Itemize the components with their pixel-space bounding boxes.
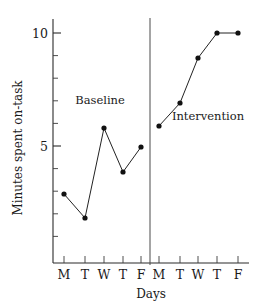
- y-axis-title: Minutes spent on-task: [11, 80, 25, 216]
- data-point-intervention-0: [156, 123, 161, 128]
- x-tick-label-0: M: [58, 267, 71, 282]
- annotation-intervention: Intervention: [172, 109, 245, 123]
- data-point-baseline-0: [61, 191, 66, 196]
- x-tick-label-6: T: [176, 267, 185, 282]
- x-tick-label-7: W: [192, 267, 205, 282]
- data-point-intervention-4: [235, 30, 240, 35]
- x-tick-label-2: W: [98, 267, 111, 282]
- x-axis-title: Days: [136, 287, 166, 301]
- data-point-baseline-1: [82, 215, 87, 220]
- series-line-baseline: [64, 128, 141, 218]
- x-tick-label-4: F: [137, 267, 146, 282]
- data-point-intervention-2: [195, 55, 200, 60]
- x-tick-label-8: T: [213, 267, 222, 282]
- y-tick-label-5: 5: [40, 139, 48, 154]
- annotation-baseline: Baseline: [75, 93, 125, 107]
- y-tick-label-10: 10: [32, 26, 48, 41]
- line-chart-plot: 10 5 M T W T F M T W T F Days Minutes sp…: [0, 0, 254, 306]
- chart-container: 10 5 M T W T F M T W T F Days Minutes sp…: [0, 0, 254, 306]
- data-point-intervention-3: [214, 30, 219, 35]
- x-tick-label-5: M: [153, 267, 166, 282]
- data-point-baseline-2: [101, 125, 106, 130]
- x-tick-label-1: T: [81, 267, 90, 282]
- x-tick-label-9: F: [234, 267, 243, 282]
- data-point-baseline-3: [120, 169, 125, 174]
- data-point-intervention-1: [177, 100, 182, 105]
- data-point-baseline-4: [138, 144, 143, 149]
- x-tick-label-3: T: [119, 267, 128, 282]
